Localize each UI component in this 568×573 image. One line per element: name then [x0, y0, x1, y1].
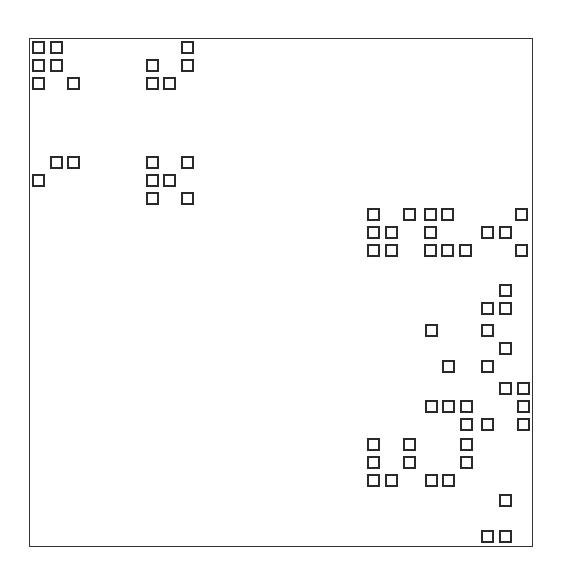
nonzero-cell [181, 59, 194, 72]
nonzero-cell [146, 192, 159, 205]
nonzero-cell [424, 244, 437, 257]
nonzero-cell [403, 208, 416, 221]
matrix-frame [29, 38, 533, 547]
nonzero-cell [460, 456, 473, 469]
nonzero-cell [441, 208, 454, 221]
nonzero-cell [460, 438, 473, 451]
nonzero-cell [385, 474, 398, 487]
nonzero-cell [367, 474, 380, 487]
nonzero-cell [50, 59, 63, 72]
nonzero-cell [67, 156, 80, 169]
nonzero-cell [499, 382, 512, 395]
nonzero-cell [181, 192, 194, 205]
nonzero-cell [481, 226, 494, 239]
nonzero-cell [425, 474, 438, 487]
nonzero-cell [515, 208, 528, 221]
nonzero-cell [50, 41, 63, 54]
nonzero-cell [499, 226, 512, 239]
nonzero-cell [367, 226, 380, 239]
nonzero-cell [499, 530, 512, 543]
nonzero-cell [460, 418, 473, 431]
nonzero-cell [515, 244, 528, 257]
nonzero-cell [481, 302, 494, 315]
nonzero-cell [424, 208, 437, 221]
nonzero-cell [32, 77, 45, 90]
nonzero-cell [146, 59, 159, 72]
nonzero-cell [459, 244, 472, 257]
nonzero-cell [181, 41, 194, 54]
nonzero-cell [146, 174, 159, 187]
nonzero-cell [67, 77, 80, 90]
nonzero-cell [481, 360, 494, 373]
nonzero-cell [499, 494, 512, 507]
nonzero-cell [442, 400, 455, 413]
nonzero-cell [499, 302, 512, 315]
nonzero-cell [517, 382, 530, 395]
nonzero-cell [367, 438, 380, 451]
nonzero-cell [499, 284, 512, 297]
nonzero-cell [424, 226, 437, 239]
nonzero-cell [385, 244, 398, 257]
nonzero-cell [163, 77, 176, 90]
nonzero-cell [367, 208, 380, 221]
nonzero-cell [32, 174, 45, 187]
nonzero-cell [181, 156, 194, 169]
nonzero-cell [442, 474, 455, 487]
nonzero-cell [403, 456, 416, 469]
nonzero-cell [50, 156, 63, 169]
nonzero-cell [32, 41, 45, 54]
nonzero-cell [425, 400, 438, 413]
nonzero-cell [367, 244, 380, 257]
nonzero-cell [425, 324, 438, 337]
nonzero-cell [403, 438, 416, 451]
nonzero-cell [517, 400, 530, 413]
nonzero-cell [499, 342, 512, 355]
nonzero-cell [441, 244, 454, 257]
nonzero-cell [385, 226, 398, 239]
nonzero-cell [481, 324, 494, 337]
nonzero-cell [32, 59, 45, 72]
nonzero-cell [517, 418, 530, 431]
nonzero-cell [367, 456, 380, 469]
nonzero-cell [481, 530, 494, 543]
nonzero-cell [163, 174, 176, 187]
nonzero-cell [442, 360, 455, 373]
nonzero-cell [481, 418, 494, 431]
nonzero-cell [146, 156, 159, 169]
nonzero-cell [146, 77, 159, 90]
nonzero-cell [460, 400, 473, 413]
